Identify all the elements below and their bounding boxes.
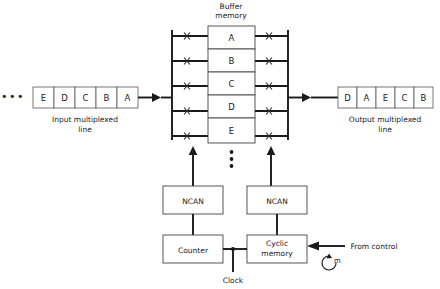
right-switch-bank bbox=[255, 33, 288, 140]
output-cell-label-1: A bbox=[364, 93, 370, 103]
from-control-label: From control bbox=[351, 242, 398, 251]
buffer-memory-stack: A B C D E bbox=[208, 26, 255, 143]
input-cell-label-2: C bbox=[83, 93, 89, 103]
buffer-cell-label-3: D bbox=[228, 102, 235, 112]
output-multiplexed-line: D A E C B Output multiplexed line bbox=[288, 87, 433, 134]
input-cell-label-3: B bbox=[104, 93, 110, 103]
buffer-memory-title-line1: Buffer bbox=[220, 2, 244, 11]
buffer-cell-label-1: B bbox=[229, 56, 235, 66]
input-caption-line1: Input multiplexed bbox=[52, 115, 118, 124]
output-arrow-head bbox=[302, 93, 311, 102]
input-multiplexed-line: ••• E D C B A Input multiplexed line bbox=[1, 87, 172, 134]
input-cell-label-1: D bbox=[61, 93, 68, 103]
input-leading-ellipsis: ••• bbox=[1, 90, 25, 103]
from-control-arrow-head bbox=[307, 242, 319, 251]
input-arrow-head bbox=[152, 93, 161, 102]
from-control-input: From control bbox=[307, 242, 397, 252]
counter-label: Counter bbox=[178, 246, 209, 255]
buffer-cell-label-4: E bbox=[229, 126, 234, 136]
left-switch-bank bbox=[172, 33, 208, 140]
counter-block[interactable]: Counter bbox=[163, 235, 223, 263]
output-cell-label-0: D bbox=[344, 93, 351, 103]
modulus-label: m bbox=[334, 257, 341, 265]
left-ncan-arrow-head bbox=[189, 146, 198, 155]
ncan-right-label: NCAN bbox=[266, 197, 288, 206]
output-caption-line2: line bbox=[378, 125, 392, 134]
buffer-cell-label-2: C bbox=[229, 79, 235, 89]
cyclic-memory-label-line2: memory bbox=[261, 249, 293, 258]
cyclic-memory-label-line1: Cyclic bbox=[266, 239, 288, 248]
right-ncan-arrow-head bbox=[267, 146, 276, 155]
output-cell-label-3: C bbox=[402, 93, 408, 103]
ncan-left-label: NCAN bbox=[182, 197, 204, 206]
buffer-memory-diagram: Buffer memory ••• E D C B A Input multip… bbox=[0, 0, 440, 289]
buffer-continuation-dots-icon bbox=[230, 150, 234, 168]
input-caption-line2: line bbox=[78, 125, 92, 134]
buffer-cell-label-0: A bbox=[229, 33, 235, 43]
output-cell-label-4: B bbox=[421, 93, 427, 103]
input-cell-label-0: E bbox=[41, 93, 46, 103]
output-cell-label-2: E bbox=[383, 93, 388, 103]
modulus-loop-icon: m bbox=[322, 254, 341, 271]
input-cell-label-4: A bbox=[125, 93, 131, 103]
clock-bus: Clock bbox=[223, 247, 247, 285]
ncan-right-block[interactable]: NCAN bbox=[247, 186, 307, 214]
buffer-memory-title-line2: memory bbox=[215, 11, 247, 20]
ncan-left-block[interactable]: NCAN bbox=[163, 186, 223, 214]
clock-junction-dot bbox=[231, 247, 235, 251]
output-caption-line1: Output multiplexed bbox=[349, 115, 422, 124]
cyclic-memory-block[interactable]: Cyclic memory bbox=[247, 235, 307, 263]
diagram-canvas: Buffer memory ••• E D C B A Input multip… bbox=[0, 0, 440, 289]
clock-label: Clock bbox=[223, 276, 244, 285]
